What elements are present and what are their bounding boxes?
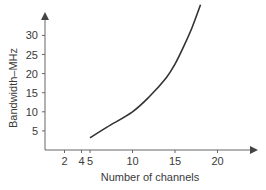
y-tick-label: 30 (26, 29, 38, 41)
x-tick-label: 10 (126, 155, 138, 167)
x-tick-label: 2 (61, 155, 67, 167)
y-tick-label: 15 (26, 87, 38, 99)
y-tick-label: 10 (26, 106, 38, 118)
y-tick-label: 25 (26, 49, 38, 61)
x-tick-label: 15 (169, 155, 181, 167)
y-tick-label: 20 (26, 68, 38, 80)
x-tick-label: 4 (78, 155, 84, 167)
y-tick-label: 5 (32, 125, 38, 137)
y-axis-title: Bandwidth–MHz (7, 48, 19, 128)
x-tick-label: 5 (87, 155, 93, 167)
y-ticks: 51015202530 (26, 29, 45, 136)
bandwidth-curve (90, 5, 201, 138)
x-ticks: 245101520 (61, 150, 223, 167)
chart-canvas: 51015202530 245101520 Number of channels… (0, 0, 266, 190)
x-tick-label: 20 (211, 155, 223, 167)
x-axis-title: Number of channels (101, 171, 200, 183)
